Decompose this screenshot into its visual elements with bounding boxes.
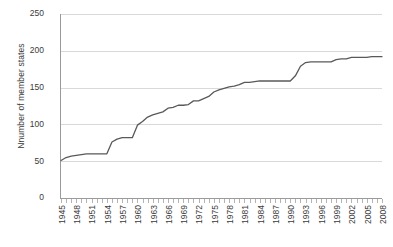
- x-axis-tick-1988: [280, 199, 281, 203]
- x-tick-label-1966: 1966: [165, 205, 174, 245]
- x-axis-tick-1945: [61, 199, 62, 203]
- x-axis-tick-1951: [92, 199, 93, 203]
- x-axis-tick-1980: [239, 199, 240, 203]
- x-tick-label-1987: 1987: [272, 205, 281, 245]
- x-tick-label-1954: 1954: [104, 205, 113, 245]
- chart-container: Nnumber of member states 250 200 150 100…: [0, 0, 393, 247]
- x-axis-ticks: [61, 199, 382, 204]
- x-tick-label-1972: 1972: [195, 205, 204, 245]
- x-axis-tick-1999: [336, 199, 337, 203]
- x-axis-tick-1952: [97, 199, 98, 203]
- x-axis-tick-1975: [214, 199, 215, 203]
- x-axis-tick-1993: [306, 199, 307, 203]
- x-axis-tick-1978: [229, 199, 230, 203]
- x-axis-tick-1976: [219, 199, 220, 203]
- x-axis-tick-1989: [285, 199, 286, 203]
- x-axis-tick-1954: [107, 199, 108, 203]
- x-axis-tick-1979: [234, 199, 235, 203]
- x-axis-tick-1965: [163, 199, 164, 203]
- x-axis-tick-1967: [173, 199, 174, 203]
- x-tick-label-1990: 1990: [287, 205, 296, 245]
- x-tick-label-1948: 1948: [73, 205, 82, 245]
- x-axis-tick-2000: [341, 199, 342, 203]
- x-axis-tick-2005: [367, 199, 368, 203]
- x-axis-tick-1960: [137, 199, 138, 203]
- x-axis-tick-2006: [372, 199, 373, 203]
- x-axis-tick-1981: [244, 199, 245, 203]
- x-tick-label-1981: 1981: [241, 205, 250, 245]
- x-axis-tick-2007: [377, 199, 378, 203]
- y-tick-label-50: 50: [18, 157, 44, 166]
- x-axis-tick-1985: [265, 199, 266, 203]
- x-tick-label-1984: 1984: [257, 205, 266, 245]
- x-axis-tick-2001: [346, 199, 347, 203]
- x-axis-tick-1949: [81, 199, 82, 203]
- series-line-member-states: [61, 57, 382, 161]
- x-axis-tick-1998: [331, 199, 332, 203]
- x-axis-tick-1994: [311, 199, 312, 203]
- x-axis-tick-1961: [143, 199, 144, 203]
- x-axis-tick-2008: [382, 199, 383, 203]
- x-tick-label-2005: 2005: [364, 205, 373, 245]
- x-axis-tick-1997: [326, 199, 327, 203]
- x-axis-tick-2004: [362, 199, 363, 203]
- x-axis-tick-1974: [209, 199, 210, 203]
- x-tick-label-2008: 2008: [379, 205, 388, 245]
- x-tick-label-2002: 2002: [348, 205, 357, 245]
- x-axis-tick-1966: [168, 199, 169, 203]
- y-axis-title: Nnumber of member states: [14, 0, 28, 196]
- x-tick-label-1978: 1978: [226, 205, 235, 245]
- x-axis-tick-1983: [255, 199, 256, 203]
- x-axis-tick-1973: [204, 199, 205, 203]
- x-tick-label-1963: 1963: [150, 205, 159, 245]
- x-axis-tick-2002: [351, 199, 352, 203]
- x-axis-tick-1970: [188, 199, 189, 203]
- y-tick-label-200: 200: [18, 46, 44, 55]
- x-axis-tick-1971: [193, 199, 194, 203]
- x-axis-tick-1986: [270, 199, 271, 203]
- y-tick-label-100: 100: [18, 120, 44, 129]
- x-tick-label-1969: 1969: [180, 205, 189, 245]
- x-axis-tick-1953: [102, 199, 103, 203]
- series-chart: [61, 14, 382, 198]
- x-axis-tick-2003: [357, 199, 358, 203]
- x-tick-label-1999: 1999: [333, 205, 342, 245]
- x-tick-label-1975: 1975: [211, 205, 220, 245]
- x-axis-tick-1950: [86, 199, 87, 203]
- x-axis-tick-1991: [295, 199, 296, 203]
- y-tick-label-0: 0: [18, 193, 44, 202]
- x-tick-label-1993: 1993: [302, 205, 311, 245]
- x-axis-tick-1977: [224, 199, 225, 203]
- x-axis-tick-1996: [321, 199, 322, 203]
- x-axis-tick-1962: [148, 199, 149, 203]
- x-tick-label-1960: 1960: [134, 205, 143, 245]
- x-axis-tick-1972: [199, 199, 200, 203]
- x-axis-tick-1958: [127, 199, 128, 203]
- x-axis-tick-1995: [316, 199, 317, 203]
- x-axis-tick-1968: [178, 199, 179, 203]
- x-axis-tick-1955: [112, 199, 113, 203]
- x-axis-tick-1992: [300, 199, 301, 203]
- x-axis-tick-1969: [183, 199, 184, 203]
- x-axis-tick-1990: [290, 199, 291, 203]
- x-axis-tick-1956: [117, 199, 118, 203]
- x-axis-tick-1982: [250, 199, 251, 203]
- x-axis-tick-1964: [158, 199, 159, 203]
- x-tick-label-1996: 1996: [318, 205, 327, 245]
- x-axis-tick-1959: [132, 199, 133, 203]
- x-axis-tick-1946: [66, 199, 67, 203]
- x-axis-tick-1984: [260, 199, 261, 203]
- x-axis-tick-1987: [275, 199, 276, 203]
- x-tick-label-1951: 1951: [88, 205, 97, 245]
- x-axis-tick-1957: [122, 199, 123, 203]
- x-tick-label-1945: 1945: [58, 205, 67, 245]
- x-axis-tick-1947: [71, 199, 72, 203]
- x-axis-tick-1948: [76, 199, 77, 203]
- x-axis-tick-1963: [153, 199, 154, 203]
- x-tick-label-1957: 1957: [119, 205, 128, 245]
- y-tick-label-150: 150: [18, 83, 44, 92]
- y-tick-label-250: 250: [18, 9, 44, 18]
